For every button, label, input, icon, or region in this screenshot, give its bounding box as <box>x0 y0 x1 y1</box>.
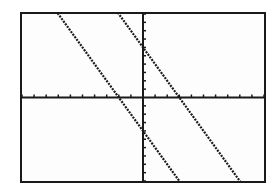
calculator-graph-screen <box>20 12 266 183</box>
graph-plot <box>22 14 264 181</box>
